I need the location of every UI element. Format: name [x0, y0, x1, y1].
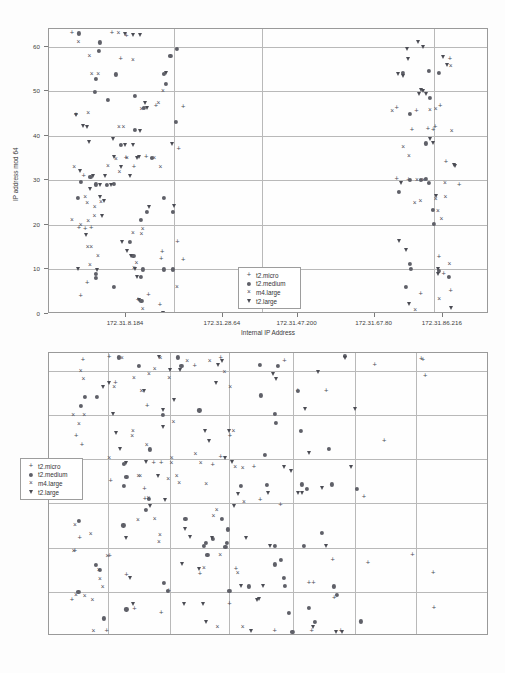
data-point-t2-micro: +: [144, 154, 148, 162]
data-point-t2-large: [74, 113, 78, 117]
data-point-t2-large: [123, 32, 127, 36]
gridline-horizontal: [49, 371, 487, 372]
data-point-t2-large: [220, 359, 224, 363]
legend-item-t2-micro[interactable]: +t2.micro: [25, 462, 77, 471]
data-point-t2-micro: +: [423, 372, 427, 380]
data-point-m4-large: ×: [136, 516, 140, 523]
data-point-t2-micro: +: [210, 462, 214, 470]
data-point-t2-micro: +: [198, 570, 202, 578]
data-point-t2-large: [142, 389, 146, 393]
legend-item-t2-large[interactable]: t2.large: [25, 488, 77, 497]
legend-top[interactable]: +t2.microt2.medium×m4.larget2.large: [238, 267, 301, 309]
data-point-m4-large: ×: [218, 551, 222, 558]
data-point-t2-large: [180, 562, 184, 566]
data-point-t2-medium: [274, 421, 278, 425]
data-point-t2-micro: +: [410, 126, 414, 134]
data-point-t2-large: [183, 527, 187, 531]
data-point-t2-micro: +: [119, 56, 123, 64]
data-point-t2-large: [112, 155, 116, 159]
legend-item-t2-large[interactable]: t2.large: [243, 297, 295, 306]
data-point-t2-medium: [330, 482, 334, 486]
legend-item-t2-micro[interactable]: +t2.micro: [243, 271, 295, 280]
y-tick-mark: [44, 313, 48, 314]
data-point-t2-medium: [94, 272, 98, 276]
data-point-t2-medium: [112, 182, 116, 186]
data-point-t2-large: [282, 465, 286, 469]
data-point-t2-micro: +: [132, 163, 136, 171]
data-point-t2-medium: [94, 77, 98, 81]
data-point-t2-large: [453, 164, 457, 168]
legend-item-t2-medium[interactable]: t2.medium: [25, 471, 77, 480]
data-point-t2-micro: +: [124, 154, 128, 162]
data-point-t2-large: [124, 536, 128, 540]
data-point-t2-large: [230, 460, 234, 464]
data-point-t2-medium: [437, 71, 441, 75]
data-point-t2-micro: +: [311, 579, 315, 587]
data-point-t2-medium: [183, 517, 187, 521]
data-point-t2-medium: [139, 275, 143, 279]
gridline-vertical: [416, 353, 417, 634]
data-point-t2-micro: +: [282, 357, 286, 365]
data-point-m4-large: ×: [91, 597, 95, 604]
data-point-t2-large: [236, 492, 240, 496]
data-point-m4-large: ×: [130, 432, 134, 439]
data-point-t2-large: [399, 181, 403, 185]
data-point-t2-micro: +: [74, 112, 78, 120]
legend-marker-plus-icon: +: [243, 271, 256, 280]
legend-triangle-down-icon: [247, 299, 251, 303]
plot-area-bottom[interactable]: ++++++++++++++++++++++++++++++++++++++++…: [48, 352, 488, 635]
data-point-t2-medium: [408, 112, 412, 116]
data-point-t2-micro: +: [394, 105, 398, 113]
legend-label: t2.medium: [38, 471, 67, 478]
x-tick-label: 172.31.8.184: [107, 319, 144, 326]
data-point-t2-micro: +: [70, 596, 74, 604]
legend-item-t2-medium[interactable]: t2.medium: [243, 280, 295, 289]
data-point-m4-large: ×: [86, 243, 90, 250]
x-tick-mark: [125, 313, 126, 317]
y-tick-mark: [44, 268, 48, 269]
data-point-t2-large: [88, 187, 92, 191]
data-point-m4-large: ×: [241, 623, 245, 630]
data-point-t2-large: [303, 407, 307, 411]
data-point-t2-large: [334, 630, 338, 634]
data-point-t2-large: [441, 55, 445, 59]
data-point-t2-medium: [401, 71, 405, 75]
data-point-t2-micro: +: [410, 551, 414, 559]
data-point-t2-micro: +: [218, 355, 222, 363]
data-point-t2-medium: [162, 196, 166, 200]
gridline-vertical: [293, 353, 294, 634]
y-tick-label: 60: [14, 42, 40, 49]
data-point-t2-micro: +: [159, 609, 163, 617]
legend-label: t2.micro: [256, 272, 278, 279]
data-point-t2-micro: +: [80, 441, 84, 449]
data-point-m4-large: ×: [449, 63, 453, 70]
legend-item-m4-large[interactable]: ×m4.large: [25, 479, 77, 488]
data-point-t2-medium: [428, 95, 432, 99]
data-point-m4-large: ×: [131, 57, 135, 64]
data-point-t2-micro: +: [160, 248, 164, 256]
gridline-vertical: [229, 353, 230, 634]
legend-label: t2.large: [38, 489, 59, 496]
data-point-t2-medium: [94, 563, 98, 567]
data-point-m4-large: ×: [74, 592, 78, 599]
legend-item-m4-large[interactable]: ×m4.large: [243, 288, 295, 297]
data-point-m4-large: ×: [175, 473, 179, 480]
data-point-t2-large: [131, 602, 135, 606]
data-point-t2-large: [320, 486, 324, 490]
data-point-t2-large: [78, 169, 82, 173]
data-point-m4-large: ×: [204, 481, 208, 488]
data-point-t2-large: [124, 461, 128, 465]
data-point-t2-medium: [283, 584, 287, 588]
data-point-t2-large: [164, 71, 168, 75]
data-point-m4-large: ×: [86, 110, 90, 117]
data-point-m4-large: ×: [81, 375, 85, 382]
legend-marker-circle-icon: [25, 471, 38, 480]
data-point-t2-micro: +: [419, 290, 423, 298]
data-point-m4-large: ×: [158, 531, 162, 538]
y-tick-label: 10: [14, 265, 40, 272]
gridline-horizontal: [49, 136, 487, 137]
data-point-m4-large: ×: [92, 213, 96, 220]
data-point-t2-medium: [204, 541, 208, 545]
legend-bottom[interactable]: +t2.microt2.medium×m4.larget2.large: [20, 458, 83, 500]
legend-triangle-down-icon: [29, 490, 33, 494]
